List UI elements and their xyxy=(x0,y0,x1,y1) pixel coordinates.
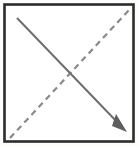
diagram-canvas xyxy=(0,0,139,147)
fold-diagram xyxy=(0,0,139,147)
